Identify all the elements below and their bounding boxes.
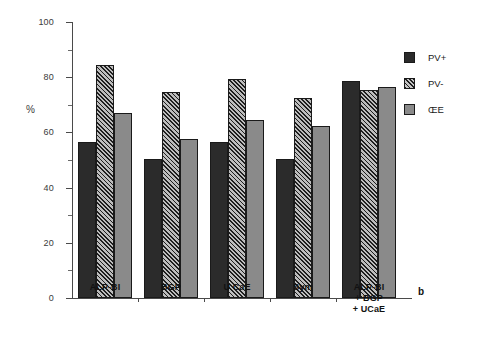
- bar: [276, 159, 294, 298]
- y-tick-label: 80: [44, 72, 54, 82]
- x-tick: [204, 298, 205, 302]
- bar: [360, 90, 378, 298]
- x-axis-category-line: ALP-BI: [336, 282, 402, 293]
- bar: [144, 159, 162, 298]
- y-tick-label: 60: [44, 127, 54, 137]
- legend-swatch: [404, 52, 415, 63]
- panel-label: b: [418, 286, 424, 297]
- bar: [294, 98, 312, 298]
- y-tick-label: 40: [44, 183, 54, 193]
- x-tick: [138, 298, 139, 302]
- bar: [78, 142, 96, 298]
- bar-group-bars: [210, 22, 264, 298]
- legend-item: PV-: [404, 70, 480, 96]
- bar-group: [78, 22, 132, 298]
- bar: [342, 81, 360, 298]
- bar-group: [342, 22, 396, 298]
- legend-swatch: [404, 104, 415, 115]
- bar-group-bars: [144, 22, 198, 298]
- x-axis-category-line: Sym: [270, 282, 336, 293]
- y-tick-label: 100: [38, 17, 54, 27]
- bar-group: [276, 22, 330, 298]
- x-axis-category-line: + UCaE: [336, 304, 402, 315]
- y-axis-labels: 020406080100: [0, 22, 66, 299]
- bar: [378, 87, 396, 298]
- bar-group-bars: [78, 22, 132, 298]
- x-axis-category-label: BGP: [138, 282, 204, 293]
- legend-label: PV+: [428, 52, 446, 63]
- plot-area: [72, 22, 402, 298]
- bar: [210, 142, 228, 298]
- bar-group: [210, 22, 264, 298]
- x-axis-category-line: BGP: [138, 282, 204, 293]
- bar: [312, 126, 330, 299]
- y-tick-label: 0: [49, 293, 54, 303]
- x-axis-category-label: ALP-BI: [72, 282, 138, 293]
- x-axis-category-line: U CaE: [204, 282, 270, 293]
- bar: [228, 79, 246, 298]
- y-tick-label: 20: [44, 238, 54, 248]
- legend-item: ŒE: [404, 96, 480, 122]
- bar-group-bars: [276, 22, 330, 298]
- bar-group-bars: [342, 22, 396, 298]
- bar: [180, 139, 198, 298]
- x-axis-category-label: U CaE: [204, 282, 270, 293]
- bar: [114, 113, 132, 298]
- x-axis-category-line: ALP-BI: [72, 282, 138, 293]
- bar: [162, 92, 180, 298]
- bar-group: [144, 22, 198, 298]
- x-axis-category-label: ALP-BI+ BGP+ UCaE: [336, 282, 402, 315]
- legend-label: ŒE: [428, 104, 444, 115]
- legend: PV+PV-ŒE: [404, 44, 480, 122]
- legend-label: PV-: [428, 78, 443, 89]
- x-tick: [270, 298, 271, 302]
- legend-item: PV+: [404, 44, 480, 70]
- chart-figure: % 020406080100 ALP-BIBGPU CaESymALP-BI+ …: [0, 0, 484, 348]
- bar: [246, 120, 264, 298]
- x-axis-category-line: + BGP: [336, 293, 402, 304]
- x-axis-category-label: Sym: [270, 282, 336, 293]
- legend-swatch: [404, 78, 415, 89]
- bar: [96, 65, 114, 298]
